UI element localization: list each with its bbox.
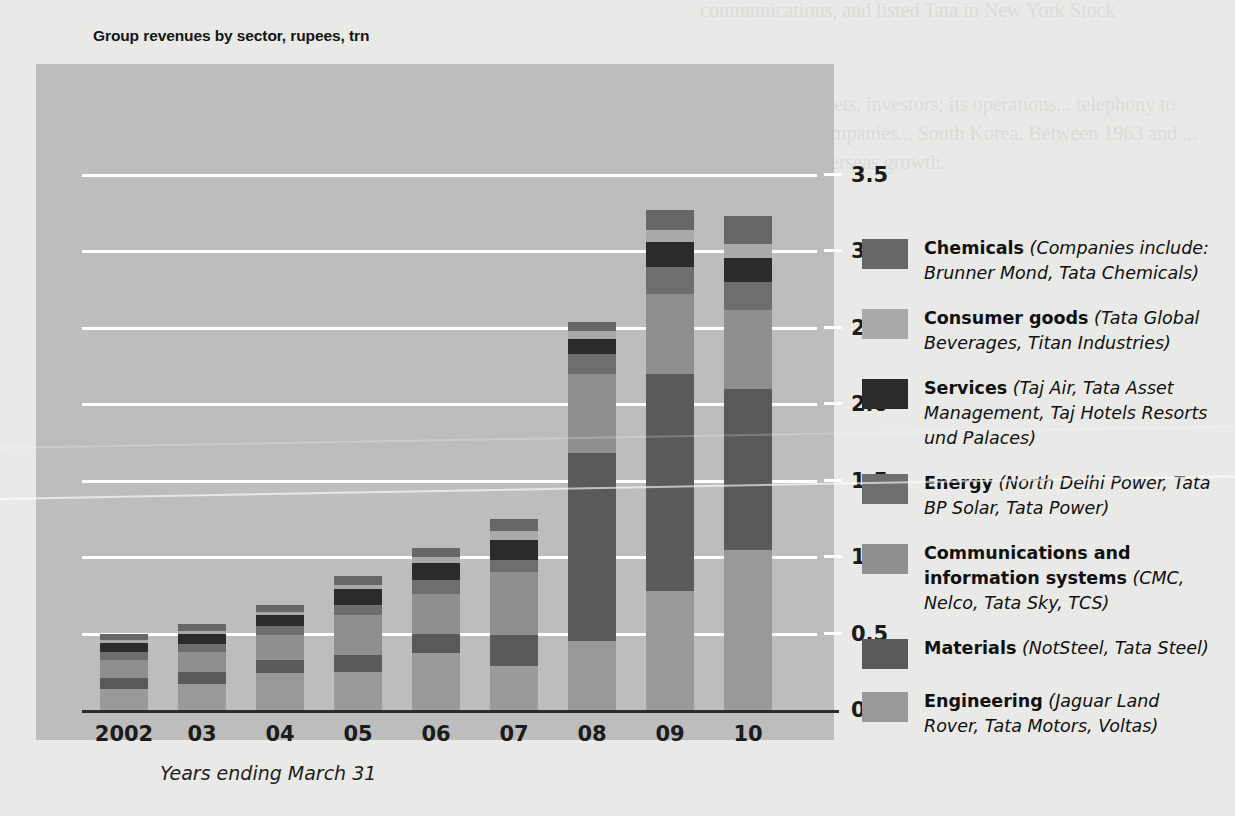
legend-color-swatch <box>862 239 908 269</box>
bar-segment[interactable] <box>412 563 460 580</box>
legend-sector-name: Materials <box>924 638 1016 658</box>
bar-segment[interactable] <box>490 635 538 666</box>
legend-label-text: Materials (NotSteel, Tata Steel) <box>924 636 1209 661</box>
bar-column[interactable] <box>646 210 694 710</box>
legend-item[interactable]: Communications and information systems (… <box>862 541 1212 616</box>
bar-segment[interactable] <box>490 540 538 560</box>
legend-color-swatch <box>862 544 908 574</box>
legend-item[interactable]: Engineering (Jaguar Land Rover, Tata Mot… <box>862 689 1212 739</box>
bar-segment[interactable] <box>334 585 382 590</box>
bar-segment[interactable] <box>256 626 304 635</box>
bar-segment[interactable] <box>412 580 460 594</box>
bar-segment[interactable] <box>100 634 148 640</box>
plot-panel: 00.51.01.52.02.53.03.5200203040506070809… <box>36 64 834 740</box>
bar-segment[interactable] <box>490 519 538 531</box>
bar-segment[interactable] <box>724 282 772 310</box>
bar-segment[interactable] <box>178 634 226 645</box>
bar-segment[interactable] <box>646 374 694 591</box>
bar-segment[interactable] <box>724 310 772 389</box>
bar-segment[interactable] <box>334 605 382 616</box>
bar-segment[interactable] <box>646 267 694 295</box>
gridline <box>82 480 817 483</box>
bar-segment[interactable] <box>334 672 382 710</box>
bar-segment[interactable] <box>256 673 304 710</box>
bar-segment[interactable] <box>178 631 226 634</box>
bar-segment[interactable] <box>646 210 694 230</box>
bar-segment[interactable] <box>724 550 772 711</box>
bar-segment[interactable] <box>256 612 304 615</box>
bar-segment[interactable] <box>256 660 304 674</box>
bar-segment[interactable] <box>100 689 148 710</box>
bar-segment[interactable] <box>100 660 148 678</box>
bar-segment[interactable] <box>412 634 460 654</box>
legend-color-swatch <box>862 309 908 339</box>
bar-column[interactable] <box>256 605 304 710</box>
bar-column[interactable] <box>490 519 538 710</box>
bar-segment[interactable] <box>100 652 148 660</box>
bar-segment[interactable] <box>412 548 460 557</box>
bar-segment[interactable] <box>412 594 460 634</box>
bar-segment[interactable] <box>724 244 772 258</box>
bar-segment[interactable] <box>100 678 148 689</box>
x-axis-tick-label: 10 <box>703 722 793 746</box>
bar-segment[interactable] <box>724 216 772 244</box>
bar-segment[interactable] <box>178 652 226 672</box>
gridline <box>82 327 817 330</box>
bar-segment[interactable] <box>568 354 616 374</box>
bar-segment[interactable] <box>568 374 616 453</box>
bar-segment[interactable] <box>412 653 460 710</box>
bar-segment[interactable] <box>412 557 460 563</box>
bar-column[interactable] <box>724 216 772 710</box>
bar-segment[interactable] <box>334 655 382 672</box>
legend-item[interactable]: Consumer goods (Tata Global Beverages, T… <box>862 306 1212 356</box>
bar-segment[interactable] <box>568 641 616 710</box>
bar-segment[interactable] <box>490 531 538 540</box>
bar-segment[interactable] <box>178 624 226 630</box>
bar-column[interactable] <box>178 624 226 710</box>
bar-segment[interactable] <box>100 640 148 643</box>
bar-segment[interactable] <box>646 294 694 373</box>
legend-item[interactable]: Energy (North Delhi Power, Tata BP Solar… <box>862 471 1212 521</box>
bar-segment[interactable] <box>724 258 772 282</box>
bar-segment[interactable] <box>178 644 226 652</box>
bar-column[interactable] <box>568 322 616 710</box>
x-axis-tick-label: 07 <box>469 722 559 746</box>
x-axis-tick-label: 03 <box>157 722 247 746</box>
y-tick-dash-icon <box>824 326 842 329</box>
bar-segment[interactable] <box>568 339 616 354</box>
bar-segment[interactable] <box>256 605 304 613</box>
x-axis-tick-label: 2002 <box>79 722 169 746</box>
legend-label-text: Services (Taj Air, Tata Asset Management… <box>924 376 1212 451</box>
bar-segment[interactable] <box>256 635 304 659</box>
bar-segment[interactable] <box>100 643 148 652</box>
bar-segment[interactable] <box>568 453 616 641</box>
bar-segment[interactable] <box>178 672 226 684</box>
legend-label-text: Engineering (Jaguar Land Rover, Tata Mot… <box>924 689 1212 739</box>
y-tick-dash-icon <box>824 249 842 252</box>
bar-column[interactable] <box>100 634 148 710</box>
legend-sector-name: Communications and information systems <box>924 543 1131 588</box>
bar-segment[interactable] <box>334 615 382 655</box>
bar-segment[interactable] <box>646 591 694 710</box>
bar-segment[interactable] <box>568 322 616 331</box>
legend-item[interactable]: Materials (NotSteel, Tata Steel) <box>862 636 1212 669</box>
plot-area: 00.51.01.52.02.53.03.5200203040506070809… <box>82 90 790 744</box>
gridline <box>82 174 817 177</box>
bar-segment[interactable] <box>568 331 616 339</box>
legend-item[interactable]: Chemicals (Companies include: Brunner Mo… <box>862 236 1212 286</box>
bar-column[interactable] <box>334 576 382 711</box>
bar-segment[interactable] <box>334 589 382 604</box>
x-axis-tick-label: 06 <box>391 722 481 746</box>
bar-segment[interactable] <box>178 684 226 710</box>
legend-label-text: Chemicals (Companies include: Brunner Mo… <box>924 236 1212 286</box>
bar-segment[interactable] <box>646 230 694 242</box>
bar-segment[interactable] <box>490 560 538 572</box>
bar-segment[interactable] <box>256 615 304 626</box>
legend-item[interactable]: Services (Taj Air, Tata Asset Management… <box>862 376 1212 451</box>
bar-column[interactable] <box>412 548 460 710</box>
bar-segment[interactable] <box>490 666 538 710</box>
bar-segment[interactable] <box>724 389 772 550</box>
bar-segment[interactable] <box>646 242 694 266</box>
bar-segment[interactable] <box>490 572 538 635</box>
bar-segment[interactable] <box>334 576 382 585</box>
